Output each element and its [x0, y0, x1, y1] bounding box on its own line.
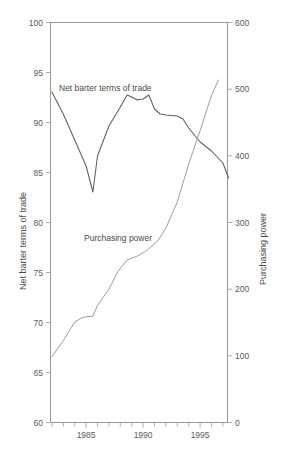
right-tick-label-500: 500 — [235, 84, 249, 94]
left-tick-label-65: 65 — [34, 368, 44, 378]
left-axis-ticks — [46, 23, 51, 423]
right-tick-label-200: 200 — [235, 284, 249, 294]
right-axis-ticks — [228, 23, 233, 423]
right-axis-title: Purchasing power — [258, 213, 268, 285]
right-tick-label-600: 600 — [235, 18, 249, 28]
left-axis-title: Net barter terms of trade — [18, 192, 28, 290]
left-tick-label-75: 75 — [34, 268, 44, 278]
series-line-purchasing-power — [52, 80, 219, 357]
left-tick-label-85: 85 — [34, 168, 44, 178]
x-axis-ticks — [52, 423, 223, 428]
left-tick-label-100: 100 — [29, 18, 43, 28]
annotation-purchasing-power: Purchasing power — [84, 233, 152, 243]
left-tick-label-80: 80 — [34, 218, 44, 228]
left-tick-label-60: 60 — [34, 418, 44, 428]
x-axis-tick-labels: 1985 1990 1995 — [77, 430, 210, 440]
chart-figure: 100 95 90 85 80 75 70 65 60 600 500 400 … — [0, 0, 287, 462]
series-line-net-barter-terms-of-trade — [52, 92, 229, 192]
right-tick-label-400: 400 — [235, 151, 249, 161]
right-tick-label-100: 100 — [235, 351, 249, 361]
annotation-net-barter-terms-of-trade: Net barter terms of trade — [59, 83, 152, 93]
right-axis-tick-labels: 600 500 400 300 200 100 0 — [235, 18, 249, 428]
x-tick-label-1990: 1990 — [134, 430, 153, 440]
left-tick-label-70: 70 — [34, 318, 44, 328]
line-chart-canvas: 100 95 90 85 80 75 70 65 60 600 500 400 … — [0, 0, 287, 462]
x-tick-label-1985: 1985 — [77, 430, 96, 440]
right-tick-label-0: 0 — [235, 418, 240, 428]
x-tick-label-1995: 1995 — [191, 430, 210, 440]
left-axis-tick-labels: 100 95 90 85 80 75 70 65 60 — [29, 18, 43, 428]
left-tick-label-90: 90 — [34, 118, 44, 128]
right-tick-label-300: 300 — [235, 218, 249, 228]
left-tick-label-95: 95 — [34, 68, 44, 78]
